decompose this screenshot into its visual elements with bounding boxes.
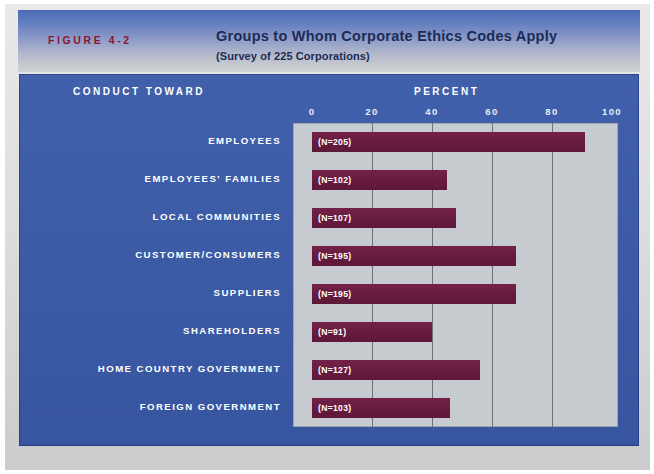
bar: (N=102) [312,170,447,190]
bar-sample-size-label: (N=127) [318,365,351,375]
plot-area: (N=205)(N=102)(N=107)(N=195)(N=195)(N=91… [293,123,618,427]
x-axis-tick-label: 60 [485,106,498,117]
bar: (N=107) [312,208,456,228]
bar: (N=127) [312,360,480,380]
bar: (N=195) [312,284,516,304]
gridline [372,123,373,427]
value-axis-header: PERCENT [414,86,479,97]
bar-sample-size-label: (N=205) [318,137,351,147]
bar: (N=195) [312,246,516,266]
category-axis-header: CONDUCT TOWARD [73,86,205,97]
bar-row: (N=102) [293,170,618,190]
x-axis-tick-label: 100 [602,106,622,117]
figure-number-label: FIGURE 4-2 [48,34,132,46]
chart-panel: CONDUCT TOWARD PERCENT 020406080100 EMPL… [19,74,639,446]
gridline [432,123,433,427]
category-label-column: EMPLOYEESEMPLOYEES' FAMILIESLOCAL COMMUN… [19,130,293,430]
figure-header-band: FIGURE 4-2 Groups to Whom Corporate Ethi… [18,10,640,72]
gridline [492,123,493,427]
bar-row: (N=107) [293,208,618,228]
category-label: EMPLOYEES' FAMILIES [145,173,281,184]
x-axis-tick-label: 0 [309,106,316,117]
category-label: EMPLOYEES [208,135,281,146]
x-axis-tick-row: 020406080100 [19,106,639,122]
category-label: LOCAL COMMUNITIES [153,211,281,222]
x-axis-tick-label: 20 [365,106,378,117]
gridline [552,123,553,427]
figure-title: Groups to Whom Corporate Ethics Codes Ap… [216,28,557,44]
bar-row: (N=127) [293,360,618,380]
bar-row: (N=103) [293,398,618,418]
bar: (N=205) [312,132,585,152]
bar-sample-size-label: (N=195) [318,251,351,261]
bar-row: (N=205) [293,132,618,152]
x-axis-tick-label: 40 [425,106,438,117]
category-label: HOME COUNTRY GOVERNMENT [98,363,281,374]
category-label: CUSTOMER/CONSUMERS [135,249,281,260]
bar-sample-size-label: (N=91) [318,327,346,337]
bar-row: (N=91) [293,322,618,342]
category-label: SUPPLIERS [214,287,281,298]
bar-sample-size-label: (N=103) [318,403,351,413]
bar-row: (N=195) [293,246,618,266]
figure-subtitle: (Survey of 225 Corporations) [216,50,370,62]
figure-root: FIGURE 4-2 Groups to Whom Corporate Ethi… [0,0,654,474]
bar-sample-size-label: (N=102) [318,175,351,185]
bar: (N=91) [312,322,432,342]
bar-sample-size-label: (N=107) [318,213,351,223]
bar: (N=103) [312,398,450,418]
bar-sample-size-label: (N=195) [318,289,351,299]
x-axis-tick-label: 80 [545,106,558,117]
category-label: FOREIGN GOVERNMENT [140,401,281,412]
bar-row: (N=195) [293,284,618,304]
category-label: SHAREHOLDERS [183,325,281,336]
